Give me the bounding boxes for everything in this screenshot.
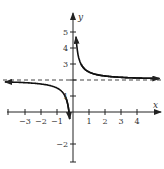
y-tick-label: 4 xyxy=(63,44,68,53)
axes xyxy=(3,13,161,162)
x-tick-label: 3 xyxy=(118,117,123,126)
x-tick-label: 1 xyxy=(86,117,91,126)
y-tick-label: 1 xyxy=(63,92,68,101)
curves xyxy=(5,37,159,119)
x-tick-label: −3 xyxy=(19,117,31,126)
x-axis-label: x xyxy=(153,100,158,110)
y-tick-label: 3 xyxy=(63,60,68,69)
chart-svg: −3−2−11234−21345yx xyxy=(0,0,164,169)
y-tick-label: 5 xyxy=(63,28,68,37)
x-tick-label: −2 xyxy=(35,117,47,126)
y-axis-label: y xyxy=(77,12,84,22)
x-tick-label: 4 xyxy=(134,117,139,126)
x-tick-label: 2 xyxy=(102,117,107,126)
graph: −3−2−11234−21345yx xyxy=(0,0,164,169)
x-tick-label: −1 xyxy=(51,117,63,126)
y-tick-label: −2 xyxy=(56,140,68,149)
left-branch-curve xyxy=(5,82,70,119)
